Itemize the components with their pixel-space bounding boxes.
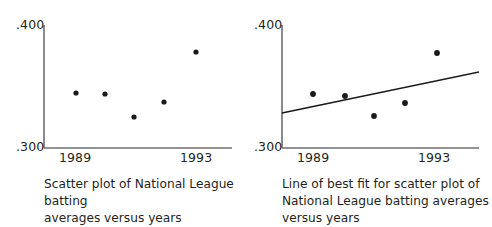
line-of-best-fit-caption: Line of best fit for scatter plot of Nat… [282, 176, 492, 227]
data-point [434, 50, 440, 56]
data-point [310, 91, 316, 97]
data-point [161, 99, 166, 104]
data-point [102, 91, 107, 96]
data-point [342, 93, 348, 99]
scatter-plot-caption: Scatter plot of National League batting … [44, 176, 250, 227]
data-point [73, 90, 78, 95]
data-point [371, 113, 377, 119]
y-axis-tick-label-upper: .400 [254, 19, 282, 32]
panel-scatter-plot: .400 .300 1989 1993 Scatter plot of Nati… [0, 0, 240, 223]
y-axis-tick-label-upper: .400 [16, 19, 44, 32]
y-axis-tick-label-lower: .300 [16, 141, 44, 154]
panel-line-of-best-fit: .400 .300 1989 1993 Line of best fit for… [240, 0, 479, 223]
data-point [131, 114, 136, 119]
data-point [402, 100, 408, 106]
x-axis-tick-label-1993: 1993 [180, 152, 212, 165]
data-point [193, 49, 198, 54]
y-axis-tick-label-lower: .300 [254, 141, 282, 154]
x-axis-tick-label-1989: 1989 [59, 152, 91, 165]
x-axis-tick-label-1993: 1993 [418, 152, 450, 165]
x-axis-tick-label-1989: 1989 [297, 152, 329, 165]
